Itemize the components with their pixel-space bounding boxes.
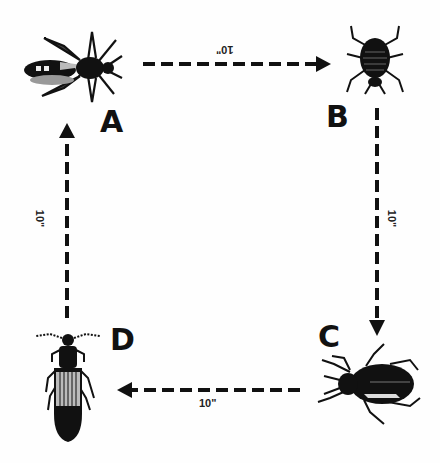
- ground-beetle-insect-icon: [318, 344, 420, 424]
- distance-label-c-d: 10": [199, 398, 216, 409]
- node-label-d: D: [110, 325, 135, 355]
- arrows-layer: [0, 0, 440, 463]
- node-label-c: C: [318, 322, 340, 352]
- node-label-b: B: [326, 102, 349, 132]
- bedbug-insect-icon: [347, 26, 403, 94]
- arrow-b-to-c: [369, 108, 385, 336]
- distance-label-a-b: 10": [216, 44, 233, 55]
- arrow-c-to-d: [117, 382, 300, 398]
- insect-cycle-diagram: A B C D 10" 10" 10" 10": [0, 0, 440, 463]
- distance-label-b-c: 10": [386, 210, 397, 227]
- arrow-d-to-a: [59, 123, 75, 318]
- click-beetle-insect-icon: [36, 334, 100, 442]
- bee-insect-icon: [24, 32, 122, 102]
- node-label-a: A: [100, 107, 123, 137]
- distance-label-d-a: 10": [34, 210, 45, 227]
- arrow-a-to-b: [143, 56, 331, 72]
